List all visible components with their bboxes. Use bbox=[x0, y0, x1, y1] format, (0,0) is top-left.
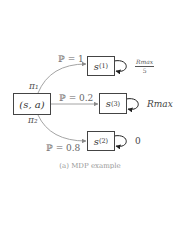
node-s1: s(1) bbox=[87, 56, 115, 76]
node-s1-sup: (1) bbox=[99, 62, 108, 70]
node-state-action: (s, a) bbox=[13, 93, 51, 115]
node-s2: s(2) bbox=[87, 131, 115, 151]
edge-to-s1 bbox=[38, 64, 86, 93]
figure-caption: (a) MDP example bbox=[0, 162, 180, 169]
node-s3: s(3) bbox=[99, 93, 127, 114]
policy-label-pi1: π₁ bbox=[29, 82, 39, 91]
self-loop-s2 bbox=[114, 136, 126, 147]
policy-label-pi2: π₂ bbox=[28, 116, 38, 125]
reward-s1-numerator: Rmax bbox=[135, 59, 154, 67]
reward-s3: Rmax bbox=[147, 100, 173, 109]
node-state-action-label: (s, a) bbox=[19, 99, 44, 110]
reward-s1-denominator: 5 bbox=[143, 67, 147, 74]
edge-to-s2 bbox=[38, 115, 86, 141]
self-loop-s1 bbox=[114, 61, 126, 72]
node-s3-sup: (3) bbox=[111, 100, 120, 108]
self-loop-s3 bbox=[126, 99, 138, 110]
node-s2-sup: (2) bbox=[99, 137, 108, 145]
reward-s2: 0 bbox=[135, 137, 141, 146]
prob-label-s1: ℙ = 1 bbox=[58, 55, 84, 64]
prob-label-s2: ℙ = 0.8 bbox=[46, 144, 80, 153]
reward-s1: Rmax 5 bbox=[135, 59, 154, 74]
prob-label-s3: ℙ = 0.2 bbox=[59, 94, 93, 103]
